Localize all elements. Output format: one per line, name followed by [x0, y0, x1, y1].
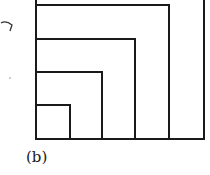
square-3 — [36, 39, 135, 139]
square-5 — [36, 0, 204, 139]
figure-caption: (b) — [26, 150, 47, 165]
stray-dot — [9, 77, 10, 78]
pen-mark — [1, 22, 12, 31]
squares-group — [36, 0, 204, 139]
square-1 — [36, 105, 70, 139]
